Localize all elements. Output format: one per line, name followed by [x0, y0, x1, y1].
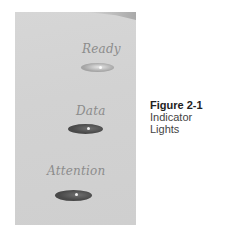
figure-title-line-2: Lights	[150, 123, 203, 135]
ready-label: Ready	[82, 42, 121, 56]
ready-light-icon	[81, 63, 114, 72]
figure-title-line-1: Indicator	[150, 111, 203, 123]
data-light-icon	[68, 124, 103, 134]
figure-caption: Figure 2-1 Indicator Lights	[150, 99, 203, 135]
figure-number: Figure 2-1	[150, 99, 203, 111]
indicator-panel-photo: Ready Data Attention	[15, 12, 136, 225]
data-label: Data	[76, 104, 106, 118]
attention-light-icon	[55, 190, 92, 201]
attention-label: Attention	[47, 164, 105, 178]
